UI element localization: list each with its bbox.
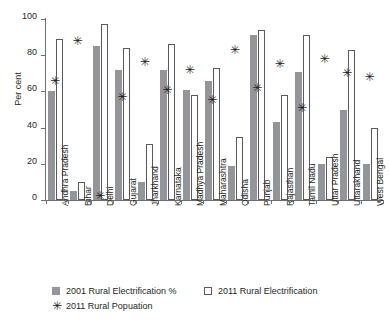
bar-2001-rural-electrification (93, 46, 100, 200)
x-tick-mark (383, 200, 384, 204)
bar-group: ✳ (226, 19, 248, 200)
bar-2001-rural-electrification (70, 191, 77, 200)
legend-item-2011-rural-electrification: 2011 Rural Electrification (204, 286, 317, 296)
x-tick-mark (158, 200, 159, 204)
x-tick-mark (316, 200, 317, 204)
y-tick-label: 0 (32, 193, 37, 202)
bar-group: ✳ (91, 19, 113, 200)
marker-2011-rural-population: ✳ (47, 75, 63, 87)
y-tick-label: 100 (22, 12, 37, 21)
bar-2001-rural-electrification (340, 110, 347, 201)
x-tick-mark (338, 200, 339, 204)
legend-item-2011-rural-population: ✳ 2011 Rural Popuation (52, 301, 204, 311)
y-tick-label: 40 (27, 121, 37, 130)
marker-2011-rural-population: ✳ (272, 58, 288, 70)
x-tick-mark (46, 200, 47, 204)
x-tick-mark (271, 200, 272, 204)
bar-2001-rural-electrification (363, 164, 370, 200)
y-tick-label: 80 (27, 48, 37, 57)
bar-2001-rural-electrification (183, 90, 190, 200)
y-tick-mark (41, 200, 45, 201)
chart-figure: Per cent 020406080100 ✳✳✳✳✳✳✳✳✳✳✳✳✳✳✳ An… (0, 0, 389, 330)
bar-2001-rural-electrification (48, 91, 55, 200)
legend-item-2001-rural-electrification: 2001 Rural Electrification % (52, 286, 204, 296)
marker-2011-rural-population: ✳ (69, 35, 85, 47)
asterisk-icon: ✳ (52, 301, 61, 311)
legend-label-2011-rural-population: 2011 Rural Popuation (66, 301, 152, 311)
marker-2011-rural-population: ✳ (339, 67, 355, 79)
legend-row-1: 2001 Rural Electrification % 2011 Rural … (52, 283, 382, 298)
x-tick-mark (203, 200, 204, 204)
y-axis-title: Per cent (13, 59, 23, 119)
bar-2001-rural-electrification (250, 35, 257, 200)
marker-2011-rural-population: ✳ (114, 91, 130, 103)
legend-row-2: ✳ 2011 Rural Popuation (52, 298, 382, 313)
bar-2001-rural-electrification (138, 182, 145, 200)
x-axis-label: Uttar Pradesh (331, 154, 340, 206)
x-tick-mark (293, 200, 294, 204)
bar-2011-rural-electrification (258, 30, 265, 200)
chart-legend: 2001 Rural Electrification % 2011 Rural … (52, 283, 382, 313)
x-tick-mark (91, 200, 92, 204)
y-tick-mark (41, 19, 45, 20)
marker-2011-rural-population: ✳ (204, 94, 220, 106)
x-axis-label: Madhya Pradesh (196, 142, 205, 206)
y-tick-label: 20 (27, 157, 37, 166)
bar-2001-rural-electrification (318, 164, 325, 200)
legend-label-2011-rural-electrification: 2011 Rural Electrification (218, 286, 317, 296)
marker-2011-rural-population: ✳ (182, 64, 198, 76)
marker-2011-rural-population: ✳ (159, 84, 175, 96)
y-tick-mark (41, 164, 45, 165)
bar-group: ✳ (248, 19, 270, 200)
x-tick-mark (68, 200, 69, 204)
x-axis-label: Andhra Pradesh (61, 145, 70, 206)
marker-2011-rural-population: ✳ (294, 102, 310, 114)
bar-2001-rural-electrification (295, 72, 302, 201)
marker-2011-rural-population: ✳ (137, 56, 153, 68)
marker-2011-rural-population: ✳ (362, 71, 378, 83)
bar-group: ✳ (113, 19, 135, 200)
open-square-icon (204, 287, 212, 295)
bar-2011-rural-electrification (101, 24, 108, 200)
y-tick-label: 60 (27, 84, 37, 93)
x-tick-mark (136, 200, 137, 204)
legend-label-2001-rural-electrification: 2001 Rural Electrification % (66, 286, 177, 296)
x-axis-label: West Bengal (376, 158, 385, 206)
x-axis-label: Maharashtra (219, 158, 228, 206)
marker-2011-rural-population: ✳ (249, 82, 265, 94)
x-tick-mark (226, 200, 227, 204)
x-tick-mark (361, 200, 362, 204)
y-tick-mark (41, 55, 45, 56)
bar-2001-rural-electrification (273, 122, 280, 200)
x-tick-mark (181, 200, 182, 204)
bar-2001-rural-electrification (228, 166, 235, 200)
x-tick-mark (113, 200, 114, 204)
x-tick-mark (248, 200, 249, 204)
bar-group: ✳ (68, 19, 90, 200)
filled-square-icon (52, 287, 60, 295)
y-tick-mark (41, 128, 45, 129)
y-tick-mark (41, 91, 45, 92)
marker-2011-rural-population: ✳ (227, 44, 243, 56)
marker-2011-rural-population: ✳ (317, 53, 333, 65)
